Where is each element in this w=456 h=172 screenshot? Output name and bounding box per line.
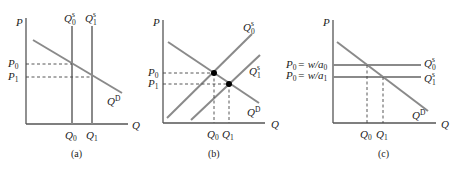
panel-c-x-axis-label: Q xyxy=(441,118,449,130)
panel-c-supply-1-label: Qs1 xyxy=(424,70,436,87)
panel-b-supply-0-label: Qs0 xyxy=(243,19,255,36)
panel-b-equilibrium-1 xyxy=(226,81,232,87)
panel-c-demand-label: QD xyxy=(412,108,426,121)
panel-a-y-axis-label: P xyxy=(15,16,23,28)
panel-b-supply-1-label: Qs1 xyxy=(249,63,261,80)
panel-a-q0-label: Q0 xyxy=(65,129,77,143)
panel-a-caption: (a) xyxy=(71,148,82,160)
panel-a-q1-label: Q1 xyxy=(86,129,98,143)
panel-b-y-axis-label: P xyxy=(152,16,160,28)
panel-c: P Q Qs0 Qs1 P0= w/a0 P0= w/a1 QD Q0 Q1 (… xyxy=(285,16,449,160)
panel-c-y-axis-label: P xyxy=(322,16,330,28)
panel-c-q0-label: Q0 xyxy=(360,128,372,142)
panel-a-demand-curve xyxy=(33,40,122,93)
panel-c-caption: (c) xyxy=(378,148,389,160)
panel-a-x-axis-label: Q xyxy=(132,119,140,131)
panel-a-supply-0-label: Qs0 xyxy=(64,10,76,27)
panel-b-caption: (b) xyxy=(208,148,220,160)
supply-demand-figure: P Q Qs0 Qs1 P0 P1 QD Q0 Q1 (a) P Q xyxy=(0,0,456,172)
panel-b: P Q Qs0 Qs1 P0 P1 QD Q0 Q1 (b) xyxy=(147,16,279,160)
panel-a-demand-label: QD xyxy=(107,94,121,107)
panel-a-p1-label: P1 xyxy=(7,70,19,84)
panel-b-equilibrium-0 xyxy=(211,70,217,76)
panel-a-supply-1-label: Qs1 xyxy=(85,10,97,27)
panel-b-demand-label: QD xyxy=(247,105,261,118)
panel-b-q1-label: Q1 xyxy=(222,128,234,142)
panel-b-q0-label: Q0 xyxy=(207,128,219,142)
panel-a-p0-label: P0 xyxy=(7,57,19,71)
panel-b-supply-0 xyxy=(167,34,252,118)
panel-b-x-axis-label: Q xyxy=(271,118,279,130)
panel-c-p1-label: P0= w/a1 xyxy=(285,69,328,83)
panel-a: P Q Qs0 Qs1 P0 P1 QD Q0 Q1 (a) xyxy=(7,10,140,160)
panel-c-q1-label: Q1 xyxy=(376,128,388,142)
